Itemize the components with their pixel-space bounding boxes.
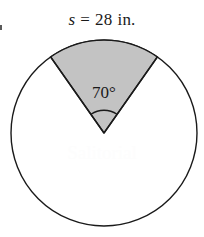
arc-length-unit: in. [117, 10, 135, 29]
arc-length-symbol: s [68, 10, 75, 29]
circle-sector-diagram [0, 0, 204, 237]
arc-length-label: s=28in. [0, 10, 204, 30]
arc-length-value: 28 [95, 10, 112, 29]
geometry-figure: Salitorial s=28in. 70° [0, 0, 204, 237]
angle-measure-label: 70° [78, 83, 130, 102]
watermark-text: Salitorial [36, 142, 168, 164]
arc-length-equals: = [80, 10, 90, 29]
